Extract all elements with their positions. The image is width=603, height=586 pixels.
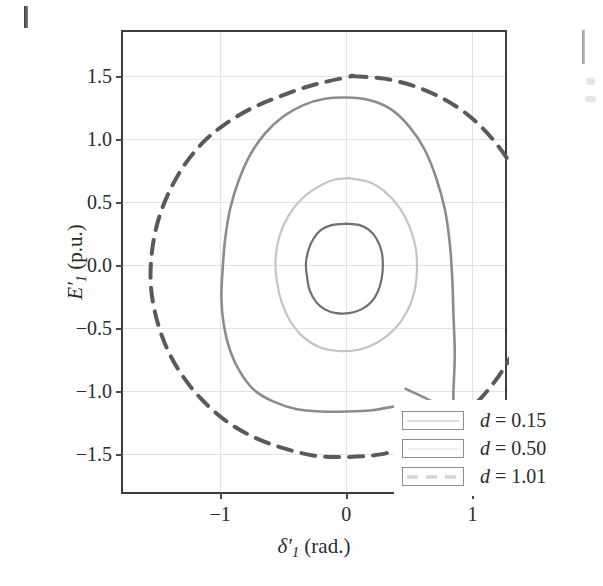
figure-canvas: 1.51.00.50.0−0.5−1.0−1.5 −101 E′1 (p.u.)…: [0, 0, 603, 586]
scan-smudge-a: [586, 78, 595, 85]
legend-entry[interactable]: d = 0.50: [402, 434, 592, 462]
legend-entry[interactable]: d = 0.15: [402, 406, 592, 434]
scan-smudge-b: [585, 96, 596, 102]
y-tick-label: −0.5: [76, 317, 112, 340]
contour-line-d-0-50: [275, 178, 416, 351]
y-tick-label: −1.0: [76, 380, 112, 403]
x-axis-label: δ′1 (rad.): [278, 534, 351, 561]
y-tick-mark: [116, 454, 123, 456]
x-tick-mark: [220, 492, 222, 499]
y-axis-label: E′1 (p.u.): [63, 224, 90, 299]
legend-swatch-icon: [402, 439, 464, 458]
y-tick-label: 1.5: [87, 65, 112, 88]
plot-area: 1.51.00.50.0−0.5−1.0−1.5 −101 E′1 (p.u.)…: [121, 30, 507, 494]
y-tick-mark: [116, 76, 123, 78]
page-edge-artifact-right: [582, 30, 585, 64]
y-tick-mark: [116, 391, 123, 393]
y-tick-label: 1.0: [87, 128, 112, 151]
legend-label: d = 1.01: [480, 465, 546, 488]
y-tick-label: −1.5: [76, 443, 112, 466]
legend-swatch-icon: [402, 411, 464, 430]
y-tick-mark: [116, 265, 123, 267]
legend-entry[interactable]: d = 1.01: [402, 462, 592, 490]
contour-line-d-0-50-outer-branch: [221, 97, 454, 411]
y-tick-mark: [116, 328, 123, 330]
x-tick-label: −1: [209, 503, 230, 526]
x-tick-label: 1: [467, 503, 477, 526]
y-tick-mark: [116, 202, 123, 204]
y-tick-label: 0.5: [87, 191, 112, 214]
contour-line-d-0-15: [306, 223, 383, 313]
page-edge-artifact-left: [24, 6, 28, 28]
chart-legend: d = 0.15d = 0.50d = 1.01: [394, 400, 600, 496]
legend-swatch-icon: [402, 467, 464, 486]
legend-label: d = 0.50: [480, 437, 546, 460]
y-tick-label: 0.0: [87, 254, 112, 277]
legend-label: d = 0.15: [480, 409, 546, 432]
x-tick-mark: [346, 492, 348, 499]
y-tick-mark: [116, 139, 123, 141]
x-tick-label: 0: [341, 503, 351, 526]
